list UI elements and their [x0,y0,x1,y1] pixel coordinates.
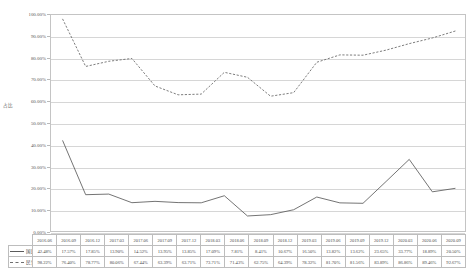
table-cell: 63.39% [153,257,177,268]
y-axis-tick-label: 50.00% [0,121,46,126]
table-cell: 13.90% [105,246,129,257]
y-axis-tick-label: 20.00% [0,186,46,191]
table-row-legend-2: 民营量 [9,257,33,268]
table-column-header: 2017.12 [177,235,201,246]
y-axis-tick-label: 70.00% [0,77,46,82]
table-row: 国民营42.48%17.57%17.85%13.90%14.52%13.95%1… [9,246,466,257]
table-column-header: 2019.09 [345,235,369,246]
table-column-header: 2020.03 [393,235,417,246]
table-cell: 63.71% [177,257,201,268]
table-cell: 78.77% [81,257,105,268]
series-line-2 [62,19,455,96]
table-cell: 89.46% [417,257,441,268]
data-table-wrap: 2016.062016.092016.122017.032017.062017.… [0,234,475,276]
y-axis-tick-mark [47,232,50,233]
table-column-header: 2019.03 [297,235,321,246]
table-cell: 64.39% [273,257,297,268]
table-cell: 76.40% [57,257,81,268]
table-cell: 42.48% [33,246,57,257]
table-cell: 17.85% [81,246,105,257]
table-cell: 67.44% [129,257,153,268]
table-column-header: 2018.09 [249,235,273,246]
table-cell: 7.81% [225,246,249,257]
table-cell: 17.57% [57,246,81,257]
table-cell: 73.71% [201,257,225,268]
chart-page: 占比 100.00%90.00%80.00%70.00%60.00%50.00%… [0,0,475,276]
table-column-header: 2017.03 [105,235,129,246]
table-body: 国民营42.48%17.57%17.85%13.90%14.52%13.95%1… [9,246,466,268]
y-axis-tick-label: 40.00% [0,142,46,147]
table-cell: 13.82% [321,246,345,257]
y-axis-tick-label: 60.00% [0,99,46,104]
table-cell: 78.32% [297,257,321,268]
table-column-header: 2020.06 [417,235,441,246]
table-cell: 16.50% [297,246,321,257]
table-cell: 92.67% [441,257,465,268]
y-axis-tick-label: 10.00% [0,208,46,213]
table-cell: 13.95% [153,246,177,257]
y-axis-tick-label: 90.00% [0,33,46,38]
table-column-header: 2018.03 [201,235,225,246]
table-column-header: 2019.12 [369,235,393,246]
table-cell: 17.09% [201,246,225,257]
legend-line-icon [10,250,24,253]
table-cell: 13.62% [345,246,369,257]
table-column-header: 2017.09 [153,235,177,246]
table-column-header: 2018.12 [273,235,297,246]
series-line-1 [62,140,455,216]
legend-label: 民营量 [26,260,33,265]
table-cell: 18.89% [417,246,441,257]
table-corner-cell [9,235,33,246]
y-axis-tick-label: 30.00% [0,164,46,169]
table-column-header: 2016.09 [57,235,81,246]
table-cell: 13.85% [177,246,201,257]
table-cell: 81.56% [345,257,369,268]
table-column-header: 2016.12 [81,235,105,246]
table-column-header: 2017.06 [129,235,153,246]
y-axis-tick-group: 100.00%90.00%80.00%70.00%60.00%50.00%40.… [0,0,46,234]
table-cell: 71.43% [225,257,249,268]
table-column-header: 2018.06 [225,235,249,246]
table-cell: 81.70% [321,257,345,268]
table-cell: 80.06% [105,257,129,268]
table-cell: 33.77% [393,246,417,257]
table-row-legend-1: 国民营 [9,246,33,257]
table-cell: 98.22% [33,257,57,268]
table-cell: 8.41% [249,246,273,257]
table-column-header: 2020.09 [441,235,465,246]
legend-line-icon [10,261,24,264]
table-cell: 86.86% [393,257,417,268]
y-axis-tick-label: 80.00% [0,55,46,60]
table-column-header: 2019.06 [321,235,345,246]
legend-label: 国民营 [26,249,33,254]
table-header-row: 2016.062016.092016.122017.032017.062017.… [9,235,466,246]
y-axis-tick-label: 100.00% [0,12,46,17]
table-row: 民营量98.22%76.40%78.77%80.06%67.44%63.39%6… [9,257,466,268]
chart-plot-area: 占比 100.00%90.00%80.00%70.00%60.00%50.00%… [0,0,475,234]
table-cell: 14.52% [129,246,153,257]
chart-svg [51,15,467,233]
data-table: 2016.062016.092016.122017.032017.062017.… [8,234,466,268]
table-cell: 83.89% [369,257,393,268]
table-cell: 10.67% [273,246,297,257]
table-column-header: 2016.06 [33,235,57,246]
plot-frame [50,14,466,232]
table-cell: 62.75% [249,257,273,268]
table-cell: 23.65% [369,246,393,257]
table-cell: 20.50% [441,246,465,257]
